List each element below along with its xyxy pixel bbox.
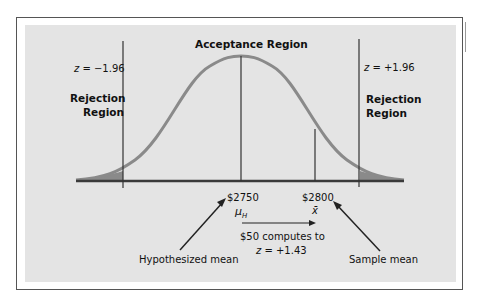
rejection-left-line1: Rejection <box>70 92 125 104</box>
acceptance-region-label: Acceptance Region <box>195 38 308 50</box>
arrow-head-icon <box>217 198 226 207</box>
hyp-mean-pointer <box>180 202 223 250</box>
mu-h-symbol: μH <box>235 205 247 220</box>
sample-mean-label: Sample mean <box>349 254 418 265</box>
z-right-label: z = +1.96 <box>364 62 415 73</box>
rejection-right-line1: Rejection <box>366 93 421 105</box>
sample-mean-pointer <box>337 205 380 251</box>
hypothesized-mean-label: Hypothesized mean <box>139 254 239 265</box>
rejection-left-line2: Region <box>83 106 124 118</box>
difference-label-line1: $50 computes to <box>240 231 325 242</box>
difference-label-line2: z = +1.43 <box>256 245 307 256</box>
z-left-label: z = −1.96 <box>74 63 125 74</box>
arrow-head-icon <box>309 220 316 226</box>
tick-label-mean: $2750 <box>227 192 259 203</box>
mu-symbol: μ <box>235 205 242 218</box>
z-left-value: = −1.96 <box>79 63 124 74</box>
xbar-symbol: x̄ <box>312 205 318 216</box>
tick-label-sample: $2800 <box>302 192 334 203</box>
mu-subscript: H <box>242 212 247 220</box>
normal-curve <box>76 56 404 180</box>
rejection-right-line2: Region <box>366 107 407 119</box>
z-right-value: = +1.96 <box>369 62 414 73</box>
